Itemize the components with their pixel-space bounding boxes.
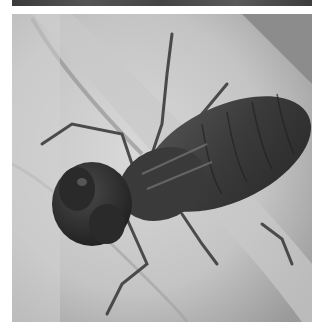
previous-photo-strip — [12, 0, 312, 6]
photo-illustration — [12, 14, 312, 322]
dragonfly-nymph-photo — [12, 14, 312, 322]
